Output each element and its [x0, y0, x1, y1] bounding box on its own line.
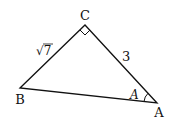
vertex-label-c: C — [80, 8, 90, 23]
angle-label-a: A — [129, 88, 139, 102]
angle-arc-a — [144, 93, 148, 101]
right-angle-marker — [80, 30, 90, 35]
side-label-ca: 3 — [122, 49, 130, 64]
triangle-diagram: C B A √7 3 A — [0, 0, 171, 122]
vertex-label-b: B — [15, 92, 25, 107]
side-label-bc: √7 — [36, 44, 51, 58]
vertex-label-a: A — [153, 105, 164, 120]
